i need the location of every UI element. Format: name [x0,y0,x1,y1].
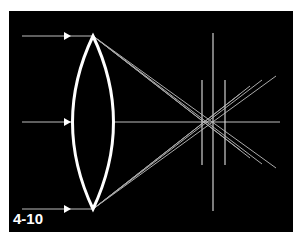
biconvex-lens [73,36,114,209]
lens-diagram [0,0,303,242]
figure-label: 4-10 [13,210,43,227]
arrowhead-icons [64,32,71,213]
